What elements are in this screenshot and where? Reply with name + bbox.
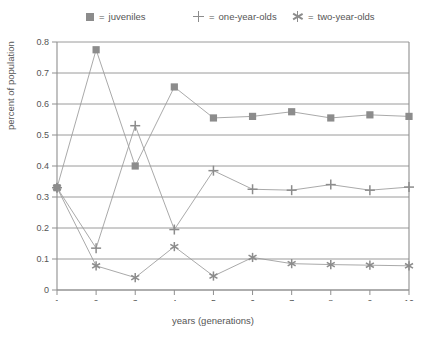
y-axis-tick-label: 0.6 bbox=[36, 99, 49, 109]
y-axis-tick-label: 0.4 bbox=[36, 161, 49, 171]
x-axis-tick-label: 10 bbox=[404, 298, 414, 301]
series-two-year-olds bbox=[53, 183, 413, 282]
x-axis-label: years (generations) bbox=[0, 315, 426, 326]
data-point-marker bbox=[249, 113, 256, 120]
series-juveniles bbox=[53, 46, 412, 191]
data-point-marker bbox=[210, 114, 217, 121]
data-point-marker bbox=[171, 83, 178, 90]
population-line-chart: = juveniles = one-year-olds = two-year-o… bbox=[0, 0, 426, 338]
y-axis-tick-label: 0.5 bbox=[36, 130, 49, 140]
asterisk-marker-icon bbox=[292, 11, 303, 22]
legend-item-juveniles: = juveniles bbox=[86, 11, 146, 22]
x-axis-tick-label: 7 bbox=[289, 298, 294, 301]
data-point-marker bbox=[405, 113, 412, 120]
x-axis-tick-label: 2 bbox=[94, 298, 99, 301]
plus-marker-icon bbox=[193, 11, 204, 22]
x-axis-tick-label: 1 bbox=[54, 298, 59, 301]
series-line bbox=[57, 126, 409, 248]
x-axis-tick-label: 4 bbox=[172, 298, 177, 301]
plot-area: 00.10.20.30.40.50.60.70.812345678910 bbox=[0, 36, 426, 301]
x-axis-tick-label: 6 bbox=[250, 298, 255, 301]
data-point-marker bbox=[327, 114, 334, 121]
data-point-marker bbox=[288, 108, 295, 115]
legend-equals-juveniles: = bbox=[99, 11, 105, 22]
plot-svg: 00.10.20.30.40.50.60.70.812345678910 bbox=[0, 36, 426, 301]
y-axis-label: percent of population bbox=[5, 41, 16, 130]
x-axis-tick-label: 8 bbox=[328, 298, 333, 301]
y-axis-tick-label: 0.7 bbox=[36, 68, 49, 78]
y-axis-tick-label: 0.1 bbox=[36, 254, 49, 264]
legend-item-one-year-olds: = one-year-olds bbox=[193, 11, 277, 22]
legend-equals-one-year-olds: = bbox=[209, 11, 215, 22]
y-axis-tick-label: 0 bbox=[44, 285, 49, 295]
series-line bbox=[57, 188, 409, 278]
data-point-marker bbox=[366, 111, 373, 118]
x-axis-tick-label: 9 bbox=[367, 298, 372, 301]
x-axis-tick-label: 5 bbox=[211, 298, 216, 301]
legend-label-two-year-olds: two-year-olds bbox=[318, 11, 375, 22]
series-line bbox=[57, 50, 409, 188]
data-point-marker bbox=[93, 46, 100, 53]
legend-label-one-year-olds: one-year-olds bbox=[219, 11, 277, 22]
series-one-year-olds bbox=[52, 121, 414, 253]
x-axis-tick-label: 3 bbox=[133, 298, 138, 301]
legend-item-two-year-olds: = two-year-olds bbox=[292, 11, 375, 22]
y-axis-tick-label: 0.3 bbox=[36, 192, 49, 202]
legend-equals-two-year-olds: = bbox=[308, 11, 314, 22]
y-axis-tick-label: 0.2 bbox=[36, 223, 49, 233]
legend-label-juveniles: juveniles bbox=[109, 11, 146, 22]
y-axis-tick-label: 0.8 bbox=[36, 37, 49, 47]
chart-legend: = juveniles = one-year-olds = two-year-o… bbox=[0, 11, 426, 31]
data-point-marker bbox=[132, 162, 139, 169]
square-marker-icon bbox=[86, 13, 94, 21]
